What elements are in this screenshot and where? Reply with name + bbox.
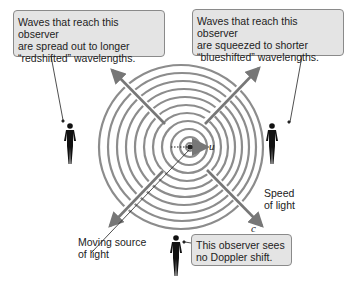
- observer-left: [64, 123, 76, 164]
- observer-bottom: [170, 235, 182, 276]
- no-shift-callout: This observer sees no Doppler shift.: [191, 234, 292, 266]
- redshift-callout: Waves that reach this observer are sprea…: [13, 10, 165, 57]
- light-source-dot: [187, 144, 192, 149]
- source-label: Moving source of light: [78, 236, 146, 260]
- blueshift-callout: Waves that reach this observer are squee…: [192, 9, 344, 56]
- light-speed-symbol: c: [251, 222, 256, 234]
- velocity-symbol: u: [209, 140, 215, 152]
- speed-of-light-label: Speed of light: [264, 187, 295, 211]
- observer-right: [266, 123, 278, 164]
